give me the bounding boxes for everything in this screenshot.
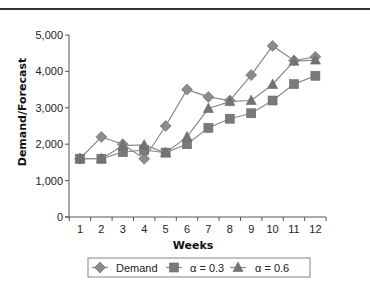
x-tick-label: 4 <box>141 223 147 235</box>
legend-label: α = 0.6 <box>255 262 289 274</box>
y-axis: 01,0002,0003,0004,0005,000 <box>35 29 69 223</box>
diamond-marker <box>160 121 171 132</box>
square-icon <box>170 263 179 272</box>
x-tick-label: 8 <box>227 223 233 235</box>
triangle-marker <box>139 139 149 149</box>
y-tick-label: 3,000 <box>35 102 63 114</box>
series-line <box>80 76 315 159</box>
square-marker <box>268 96 277 105</box>
x-tick-label: 11 <box>288 223 299 235</box>
x-tick-label: 2 <box>98 223 104 235</box>
series-line <box>80 46 315 159</box>
diamond-marker <box>203 91 214 102</box>
legend-item: α = 0.3 <box>166 262 224 274</box>
legend-item: α = 0.6 <box>230 262 289 274</box>
diamond-marker <box>139 153 150 164</box>
series-square <box>76 71 320 163</box>
square-marker <box>204 123 213 132</box>
legend-label: Demand <box>116 262 158 274</box>
y-tick-label: 4,000 <box>35 65 63 77</box>
x-tick-label: 10 <box>266 223 278 235</box>
line-chart: 01,0002,0003,0004,0005,000 1234567891011… <box>0 0 370 293</box>
x-tick-label: 12 <box>309 223 321 235</box>
triangle-marker <box>246 95 256 105</box>
x-axis: 123456789101112 <box>65 217 326 235</box>
x-tick-label: 3 <box>120 223 126 235</box>
series-diamond <box>75 40 321 164</box>
series-layer <box>75 40 321 164</box>
x-axis-title: Weeks <box>173 239 214 252</box>
x-tick-label: 9 <box>248 223 254 235</box>
y-tick-label: 0 <box>57 211 63 223</box>
diamond-marker <box>267 40 278 51</box>
series-triangle <box>75 55 320 163</box>
square-marker <box>225 114 234 123</box>
diamond-marker <box>182 84 193 95</box>
x-tick-label: 6 <box>184 223 190 235</box>
x-tick-label: 1 <box>77 223 83 235</box>
x-tick-label: 5 <box>163 223 169 235</box>
series-line <box>80 60 315 159</box>
y-tick-label: 1,000 <box>35 175 63 187</box>
y-tick-label: 5,000 <box>35 29 63 41</box>
x-tick-label: 7 <box>205 223 211 235</box>
square-marker <box>311 71 320 80</box>
y-axis-title: Demand/Forecast <box>16 58 29 166</box>
square-marker <box>247 109 256 118</box>
legend-label: α = 0.3 <box>190 262 224 274</box>
legend: Demandα = 0.3α = 0.6 <box>88 258 310 277</box>
y-tick-label: 2,000 <box>35 138 63 150</box>
square-marker <box>290 80 299 89</box>
